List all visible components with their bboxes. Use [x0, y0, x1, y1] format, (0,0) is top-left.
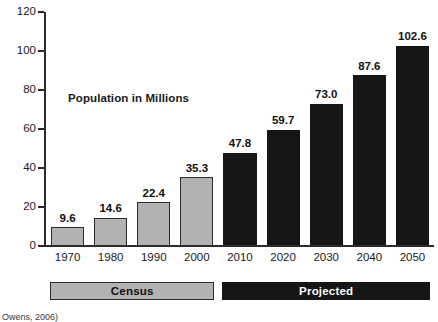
x-axis-line — [44, 245, 434, 247]
source-caption: Owens, 2006) — [2, 312, 58, 322]
legend-band-census[interactable]: Census — [50, 282, 214, 300]
y-axis-tick-label: 120 — [2, 6, 36, 18]
x-axis-label-2030: 2030 — [305, 252, 348, 264]
legend-band-projected[interactable]: Projected — [222, 282, 430, 300]
x-axis-label-2010: 2010 — [218, 252, 261, 264]
y-axis-tick-label: 20 — [2, 201, 36, 213]
bar-2030[interactable] — [310, 104, 343, 246]
bar-value-label: 22.4 — [132, 188, 175, 200]
x-axis-label-2000: 2000 — [175, 252, 218, 264]
bar-2050[interactable] — [396, 46, 429, 246]
bar-slot: 22.4 — [132, 12, 175, 246]
y-axis-tick — [38, 50, 44, 52]
bar-value-label: 102.6 — [391, 31, 434, 43]
bar-value-label: 59.7 — [262, 115, 305, 127]
bar-1980[interactable] — [94, 218, 127, 246]
bar-2020[interactable] — [267, 130, 300, 246]
y-axis-tick-label: 40 — [2, 162, 36, 174]
population-bar-chart: 020406080100120 Population in Millions 9… — [0, 0, 438, 322]
bar-value-label: 14.6 — [89, 203, 132, 215]
bar-slot: 47.8 — [218, 12, 261, 246]
bar-1970[interactable] — [51, 227, 84, 246]
bar-slot: 35.3 — [175, 12, 218, 246]
bar-1990[interactable] — [137, 202, 170, 246]
y-axis-tick — [38, 128, 44, 130]
bar-2010[interactable] — [223, 153, 256, 246]
plot-area: 9.614.622.435.347.859.773.087.6102.6 — [46, 12, 434, 246]
y-axis-tick-label: 60 — [2, 123, 36, 135]
bar-slot: 59.7 — [262, 12, 305, 246]
bar-slot: 9.6 — [46, 12, 89, 246]
y-axis-tick-label: 100 — [2, 45, 36, 57]
bar-value-label: 73.0 — [305, 89, 348, 101]
x-axis-label-2040: 2040 — [348, 252, 391, 264]
x-axis-label-2020: 2020 — [262, 252, 305, 264]
x-axis-label-1970: 1970 — [46, 252, 89, 264]
bar-slot: 14.6 — [89, 12, 132, 246]
bar-2040[interactable] — [353, 75, 386, 246]
y-axis-tick-label: 80 — [2, 84, 36, 96]
y-axis-tick — [38, 11, 44, 13]
y-axis-tick — [38, 167, 44, 169]
bar-value-label: 35.3 — [175, 163, 218, 175]
x-axis-label-1990: 1990 — [132, 252, 175, 264]
bar-value-label: 9.6 — [46, 213, 89, 225]
bar-2000[interactable] — [180, 177, 213, 246]
y-axis-tick — [38, 206, 44, 208]
y-axis-tick-label: 0 — [2, 240, 36, 252]
y-axis-tick — [38, 89, 44, 91]
bar-value-label: 47.8 — [218, 138, 261, 150]
bar-slot: 87.6 — [348, 12, 391, 246]
bar-slot: 73.0 — [305, 12, 348, 246]
x-axis-label-2050: 2050 — [391, 252, 434, 264]
x-axis-label-1980: 1980 — [89, 252, 132, 264]
bar-value-label: 87.6 — [348, 61, 391, 73]
bar-slot: 102.6 — [391, 12, 434, 246]
